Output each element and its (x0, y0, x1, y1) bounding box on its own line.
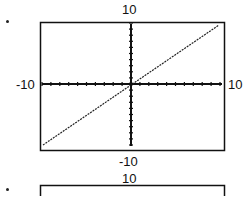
origin-dot (129, 82, 133, 86)
graph-canvas (0, 0, 243, 196)
graph2-frame (41, 186, 225, 197)
